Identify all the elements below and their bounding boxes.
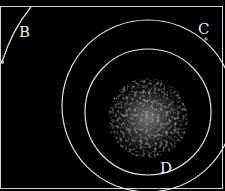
label-d: D — [160, 159, 172, 177]
label-c: C — [198, 20, 209, 38]
central-cloud — [106, 76, 190, 160]
figure-canvas: B C D — [0, 0, 225, 191]
label-b: B — [19, 23, 30, 41]
arc-b-endpoint — [0, 60, 4, 64]
figure: B C D — [0, 0, 225, 191]
